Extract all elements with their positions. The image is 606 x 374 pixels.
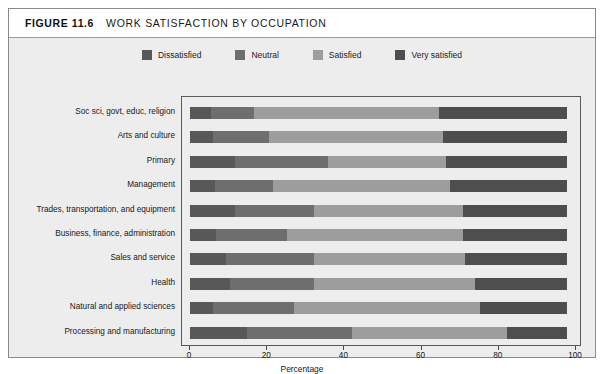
x-tick-label: 60 xyxy=(416,351,425,360)
x-tick-mark xyxy=(498,346,499,350)
bar-row xyxy=(190,107,567,119)
stacked-bar xyxy=(190,302,567,314)
bar-segment xyxy=(314,253,465,265)
bar-segment xyxy=(463,205,567,217)
category-label: Processing and manufacturing xyxy=(9,326,175,338)
bar-segment xyxy=(213,131,270,143)
bar-segment xyxy=(507,327,567,339)
bar-segment xyxy=(190,327,247,339)
bar-segment xyxy=(254,107,439,119)
plot-inner xyxy=(190,97,567,345)
legend-item: Dissatisfied xyxy=(142,50,201,60)
x-tick-mark xyxy=(343,346,344,350)
stacked-bar xyxy=(190,253,567,265)
bar-row xyxy=(190,205,567,217)
stacked-bar xyxy=(190,131,567,143)
stacked-bar xyxy=(190,229,567,241)
legend-label: Satisfied xyxy=(329,50,362,60)
bar-segment xyxy=(314,205,463,217)
stacked-bar xyxy=(190,156,567,168)
legend-item: Very satisfied xyxy=(395,50,462,60)
chart-legend: DissatisfiedNeutralSatisfiedVery satisfi… xyxy=(9,50,595,60)
x-tick-label: 0 xyxy=(187,351,192,360)
bar-row xyxy=(190,327,567,339)
x-tick-mark xyxy=(575,346,576,350)
x-tick-mark xyxy=(266,346,267,350)
bar-segment xyxy=(190,180,215,192)
bar-segment xyxy=(216,229,286,241)
bar-segment xyxy=(215,180,273,192)
category-label: Management xyxy=(9,179,175,191)
x-axis-ticks: 020406080100 xyxy=(189,346,575,352)
x-tick-label: 80 xyxy=(493,351,502,360)
category-label: Trades, transportation, and equipment xyxy=(9,204,175,216)
bar-segment xyxy=(450,180,567,192)
legend-item: Neutral xyxy=(235,50,278,60)
bar-row xyxy=(190,180,567,192)
legend-label: Neutral xyxy=(251,50,278,60)
bar-segment xyxy=(190,229,216,241)
legend-swatch-icon xyxy=(313,50,323,60)
bar-segment xyxy=(475,278,567,290)
bar-segment xyxy=(328,156,447,168)
figure-container: FIGURE 11.6 WORK SATISFACTION BY OCCUPAT… xyxy=(8,8,596,358)
x-tick-mark xyxy=(189,346,190,350)
x-tick-label: 40 xyxy=(339,351,348,360)
bar-segment xyxy=(247,327,353,339)
bar-segment xyxy=(230,278,315,290)
x-tick-label: 100 xyxy=(568,351,582,360)
category-label: Business, finance, administration xyxy=(9,228,175,240)
plot-area xyxy=(181,96,581,346)
stacked-bar xyxy=(190,327,567,339)
bar-segment xyxy=(294,302,481,314)
bar-segment xyxy=(273,180,450,192)
bar-segment xyxy=(463,229,567,241)
legend-swatch-icon xyxy=(142,50,152,60)
stacked-bar xyxy=(190,107,567,119)
legend-label: Dissatisfied xyxy=(158,50,201,60)
figure-title: WORK SATISFACTION BY OCCUPATION xyxy=(106,17,326,29)
bar-segment xyxy=(213,302,294,314)
figure-number: FIGURE 11.6 xyxy=(25,17,94,29)
bar-segment xyxy=(314,278,474,290)
bar-segment xyxy=(226,253,315,265)
bar-segment xyxy=(190,107,211,119)
bar-segment xyxy=(190,278,230,290)
figure-title-bar: FIGURE 11.6 WORK SATISFACTION BY OCCUPAT… xyxy=(9,9,595,38)
bar-segment xyxy=(190,131,213,143)
bar-row xyxy=(190,278,567,290)
x-tick-label: 20 xyxy=(262,351,271,360)
bar-segment xyxy=(352,327,507,339)
bar-segment xyxy=(446,156,567,168)
category-label: Arts and culture xyxy=(9,130,175,142)
bar-segment xyxy=(480,302,567,314)
bar-row xyxy=(190,131,567,143)
bar-segment xyxy=(190,253,226,265)
bar-segment xyxy=(235,156,327,168)
stacked-bar xyxy=(190,278,567,290)
legend-swatch-icon xyxy=(395,50,405,60)
legend-label: Very satisfied xyxy=(411,50,462,60)
bar-segment xyxy=(287,229,463,241)
bar-row xyxy=(190,253,567,265)
legend-swatch-icon xyxy=(235,50,245,60)
bar-row xyxy=(190,302,567,314)
x-axis-title: Percentage xyxy=(9,364,595,374)
bar-segment xyxy=(235,205,314,217)
bar-segment xyxy=(190,302,213,314)
category-label: Natural and applied sciences xyxy=(9,301,175,313)
stacked-bar xyxy=(190,205,567,217)
bar-segment xyxy=(190,205,235,217)
bar-segment xyxy=(465,253,567,265)
category-label: Health xyxy=(9,277,175,289)
bar-segment xyxy=(439,107,567,119)
stacked-bar xyxy=(190,180,567,192)
bar-segment xyxy=(443,131,567,143)
bar-segment xyxy=(211,107,254,119)
category-label: Soc sci, govt, educ, religion xyxy=(9,106,175,118)
bar-segment xyxy=(190,156,235,168)
category-label: Primary xyxy=(9,155,175,167)
bar-segment xyxy=(269,131,442,143)
legend-item: Satisfied xyxy=(313,50,362,60)
bar-row xyxy=(190,229,567,241)
